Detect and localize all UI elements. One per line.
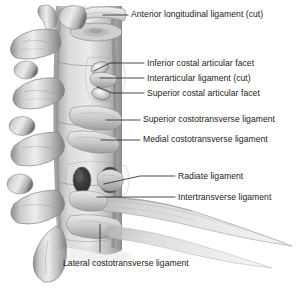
label-interarticular-ligament-cut: Interarticular ligament (cut) xyxy=(147,73,251,83)
label-superior-costal-articular-facet: Superior costal articular facet xyxy=(147,88,260,98)
label-intertransverse-ligament: Intertransverse ligament xyxy=(178,192,271,202)
anatomical-figure: Anterior longitudinal ligament (cut) Inf… xyxy=(0,0,306,288)
label-lateral-costotransverse-ligament: Lateral costotransverse ligament xyxy=(63,258,189,268)
label-superior-costotransverse-ligament: Superior costotransverse ligament xyxy=(143,114,275,124)
label-inferior-costal-articular-facet: Inferior costal articular facet xyxy=(147,58,254,68)
label-medial-costotransverse-ligament: Medial costotransverse ligament xyxy=(143,134,268,144)
vertebrae-illustration xyxy=(0,0,306,288)
label-radiate-ligament: Radiate ligament xyxy=(178,171,243,181)
label-anterior-longitudinal-ligament-cut: Anterior longitudinal ligament (cut) xyxy=(131,9,263,19)
